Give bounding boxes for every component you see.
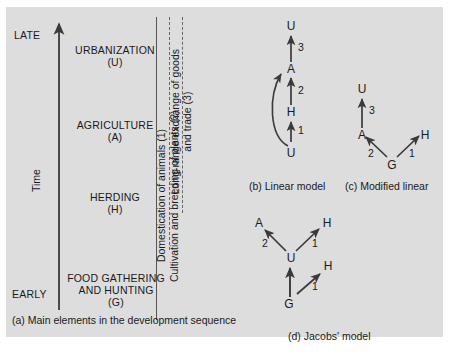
- innovation-label-3: Long-range exchange of goods and trade (…: [169, 39, 193, 204]
- node-b-top-u: U: [284, 19, 298, 33]
- arrow-label-b-3: 3: [298, 41, 304, 53]
- node-c-right-h: H: [418, 128, 432, 142]
- stage-label-food-gathering: FOOD GATHERING AND HUNTING (G): [66, 272, 166, 308]
- node-b-third-h: H: [284, 105, 298, 119]
- arrow-label-d-1-lower: 1: [312, 280, 318, 292]
- figure-container: LATE EARLY Time URBANIZATION (U) AGRICUL…: [0, 0, 449, 361]
- arrow-label-c-2: 2: [368, 147, 374, 159]
- node-d-lower-right-h: H: [321, 259, 335, 273]
- axis-label-late: LATE: [14, 29, 40, 41]
- arrow-label-b-2: 2: [298, 84, 304, 96]
- stage-name: URBANIZATION: [70, 44, 160, 56]
- stage-code: (G): [66, 296, 166, 308]
- axis-label-early: EARLY: [12, 288, 47, 300]
- innovation-label-3-line2: and trade (3): [181, 39, 193, 204]
- innovation-label-1: Domestication of animals (1): [155, 129, 167, 262]
- stage-code: (A): [70, 131, 160, 143]
- node-d-upper-right-h: H: [320, 216, 334, 230]
- node-c-bottom-g: G: [385, 158, 399, 172]
- caption-a: (a) Main elements in the development seq…: [12, 314, 236, 326]
- caption-d: (d) Jacobs' model: [288, 330, 371, 342]
- stage-label-urbanization: URBANIZATION (U): [70, 44, 160, 68]
- node-d-upper-left-a: A: [252, 216, 266, 230]
- stage-name: HERDING: [70, 191, 160, 203]
- axis-title-time: Time: [30, 169, 42, 192]
- arrow-label-b-1: 1: [298, 124, 304, 136]
- arrow-label-d-1-upper: 1: [312, 237, 318, 249]
- node-d-bottom-g: G: [282, 297, 296, 311]
- node-c-top-u: U: [355, 82, 369, 96]
- stage-name: AGRICULTURE: [70, 119, 160, 131]
- stage-code: (H): [70, 203, 160, 215]
- arrow-label-d-2: 2: [262, 237, 268, 249]
- arrow-label-c-1: 1: [409, 147, 415, 159]
- caption-c: (c) Modified linear: [345, 180, 428, 192]
- node-d-center-u: U: [284, 251, 298, 265]
- stage-name-line1: FOOD GATHERING: [66, 272, 166, 284]
- arrow-label-c-3: 3: [369, 104, 375, 116]
- stage-label-agriculture: AGRICULTURE (A): [70, 119, 160, 143]
- node-b-bottom-u: U: [284, 146, 298, 160]
- caption-b: (b) Linear model: [249, 180, 325, 192]
- stage-name-line2: AND HUNTING: [66, 284, 166, 296]
- node-b-second-a: A: [284, 62, 298, 76]
- stage-code: (U): [70, 56, 160, 68]
- stage-label-herding: HERDING (H): [70, 191, 160, 215]
- node-c-left-a: A: [355, 128, 369, 142]
- innovation-label-3-line1: Long-range exchange of goods: [169, 39, 181, 204]
